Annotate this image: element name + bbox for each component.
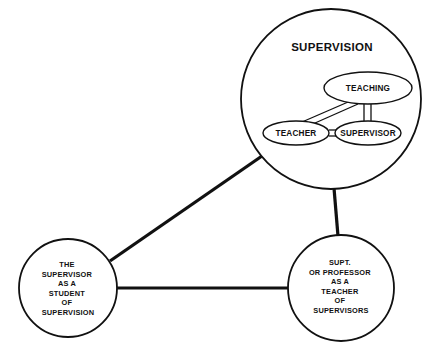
- teacher-label: TEACHER: [276, 129, 317, 138]
- diagram-svg: SUPERVISION TEACHING: [0, 0, 426, 360]
- student-line-5: SUPERVISION: [42, 307, 95, 316]
- supt-line-5: SUPERVISORS: [313, 305, 368, 314]
- supt-line-4: OF: [335, 296, 346, 305]
- supt-line-3: TEACHER: [321, 286, 359, 295]
- student-line-2: AS A: [58, 279, 77, 288]
- student-line-4: OF: [62, 298, 73, 307]
- node-teaching[interactable]: TEACHING: [324, 72, 412, 104]
- node-supervisor[interactable]: SUPERVISOR: [335, 121, 401, 145]
- supt-line-0: SUPT.: [329, 258, 351, 267]
- supervisor-label: SUPERVISOR: [340, 129, 396, 138]
- node-supt-or-professor[interactable]: SUPT. OR PROFESSOR AS A TEACHER OF SUPER…: [288, 235, 394, 341]
- student-line-1: SUPERVISOR: [42, 269, 93, 278]
- diagram-canvas: SUPERVISION TEACHING: [0, 0, 426, 360]
- node-supervisor-as-student[interactable]: THE SUPERVISOR AS A STUDENT OF SUPERVISI…: [19, 239, 117, 337]
- supervision-title: SUPERVISION: [291, 41, 373, 53]
- edge-supervision-to-student: [110, 156, 262, 261]
- edge-supervision-to-teacher-of-supervisors: [334, 188, 338, 236]
- supt-line-2: AS A: [331, 277, 350, 286]
- supt-line-1: OR PROFESSOR: [309, 267, 371, 276]
- student-line-3: STUDENT: [49, 288, 86, 297]
- teaching-label: TEACHING: [346, 84, 390, 93]
- node-teacher[interactable]: TEACHER: [263, 121, 329, 145]
- student-line-0: THE: [59, 260, 74, 269]
